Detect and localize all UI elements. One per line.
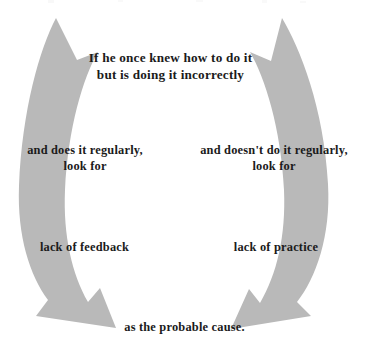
figure-container: If he once knew how to do it but is doin… xyxy=(0,0,365,357)
left-condition-text: and does it regularly, look for xyxy=(0,143,170,175)
conclusion-text: as the probable cause. xyxy=(92,320,277,336)
right-condition-text: and doesn't do it regularly, look for xyxy=(188,143,360,175)
right-result-text: lack of practice xyxy=(196,240,356,256)
premise-text: If he once knew how to do it but is doin… xyxy=(58,50,283,84)
left-result-text: lack of feedback xyxy=(2,240,167,256)
